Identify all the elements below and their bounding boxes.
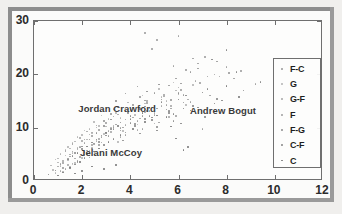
scatter-point bbox=[144, 121, 146, 123]
x-axis-tick bbox=[227, 175, 228, 179]
scatter-point bbox=[103, 133, 105, 135]
scatter-point bbox=[125, 119, 127, 121]
legend-item-fg[interactable]: F-G bbox=[274, 122, 320, 138]
scatter-point bbox=[214, 74, 216, 76]
scatter-point bbox=[154, 114, 156, 116]
legend-marker-dot-icon bbox=[274, 98, 290, 100]
scatter-point bbox=[216, 61, 218, 63]
scatter-point bbox=[81, 140, 83, 142]
scatter-point bbox=[151, 48, 153, 50]
scatter-point bbox=[132, 117, 134, 119]
scatter-point bbox=[98, 138, 100, 140]
x-axis-tick bbox=[82, 21, 83, 25]
scatter-point bbox=[228, 72, 230, 74]
scatter-point bbox=[103, 120, 105, 122]
scatter-point bbox=[130, 115, 132, 117]
scatter-point bbox=[120, 134, 122, 136]
legend-marker-dot-icon bbox=[274, 68, 290, 70]
legend-item-f[interactable]: F bbox=[274, 107, 320, 123]
scatter-point bbox=[108, 141, 110, 143]
scatter-point bbox=[187, 146, 189, 148]
scatter-point bbox=[110, 128, 112, 130]
scatter-point bbox=[77, 160, 79, 162]
scatter-point bbox=[175, 78, 177, 80]
scatter-point bbox=[161, 99, 163, 101]
scatter-point bbox=[190, 101, 192, 103]
scatter-point bbox=[211, 59, 213, 61]
scatter-point bbox=[120, 130, 122, 132]
scatter-point bbox=[101, 136, 103, 138]
scatter-point bbox=[183, 94, 185, 96]
legend-label: G-F bbox=[290, 94, 305, 104]
y-axis-tick-label: 20 bbox=[5, 66, 29, 80]
scatter-point bbox=[139, 96, 141, 98]
legend-item-fc[interactable]: F-C bbox=[274, 61, 320, 77]
scatter-point bbox=[101, 142, 103, 144]
scatter-point bbox=[125, 134, 127, 136]
scatter-point bbox=[72, 143, 74, 145]
scatter-point bbox=[233, 78, 235, 80]
scatter-point bbox=[48, 174, 50, 176]
scatter-point bbox=[65, 155, 67, 157]
x-axis-tick bbox=[179, 21, 180, 25]
scatter-point bbox=[96, 139, 98, 141]
scatter-point bbox=[77, 149, 79, 151]
x-axis-tick bbox=[130, 21, 131, 25]
scatter-point bbox=[130, 122, 132, 124]
legend-label: C-F bbox=[290, 140, 304, 150]
scatter-point bbox=[185, 95, 187, 97]
scatter-point bbox=[67, 146, 69, 148]
scatter-point bbox=[57, 162, 59, 164]
scatter-point bbox=[55, 170, 57, 172]
scatter-point bbox=[91, 142, 93, 144]
scatter-point bbox=[161, 105, 163, 107]
scatter-point bbox=[98, 125, 100, 127]
legend-item-g[interactable]: G bbox=[274, 76, 320, 92]
scatter-point bbox=[96, 140, 98, 142]
scatter-point bbox=[105, 122, 107, 124]
legend-item-cf[interactable]: C-F bbox=[274, 138, 320, 154]
legend: F-CGG-FFF-GC-FC bbox=[273, 58, 321, 168]
scatter-point bbox=[134, 114, 136, 116]
scatter-point bbox=[69, 156, 71, 158]
scatter-point bbox=[50, 165, 52, 167]
scatter-point bbox=[62, 167, 64, 169]
y-axis-tick bbox=[34, 128, 38, 129]
scatter-point bbox=[185, 69, 187, 71]
scatter-point bbox=[134, 125, 136, 127]
scatter-point bbox=[96, 132, 98, 134]
legend-marker-dot-icon bbox=[274, 114, 290, 116]
scatter-point bbox=[77, 152, 79, 154]
scatter-point bbox=[195, 80, 197, 82]
scatter-point bbox=[142, 115, 144, 117]
legend-marker-dot-icon bbox=[274, 160, 290, 162]
y-axis-tick bbox=[34, 21, 38, 22]
scatter-point bbox=[139, 118, 141, 120]
frame-bevel-right bbox=[330, 7, 334, 202]
x-axis-tick-label: 8 bbox=[222, 183, 229, 197]
scatter-point bbox=[81, 170, 83, 172]
scatter-point bbox=[86, 131, 88, 133]
scatter-point bbox=[62, 162, 64, 164]
scatter-point bbox=[60, 153, 62, 155]
y-axis-tick-label: 0 bbox=[5, 173, 29, 187]
scatter-point bbox=[110, 131, 112, 133]
scatter-point bbox=[178, 35, 180, 37]
scatter-point bbox=[144, 118, 146, 120]
x-axis-tick bbox=[227, 21, 228, 25]
player-annotation: Andrew Bogut bbox=[190, 105, 256, 116]
scatter-point bbox=[110, 119, 112, 121]
legend-item-gf[interactable]: G-F bbox=[274, 92, 320, 108]
scatter-point bbox=[130, 119, 132, 121]
legend-item-c[interactable]: C bbox=[274, 153, 320, 169]
scatter-point bbox=[173, 65, 175, 67]
scatter-point bbox=[65, 150, 67, 152]
scatter-point bbox=[86, 139, 88, 141]
scatter-point bbox=[170, 105, 172, 107]
scatter-point bbox=[91, 135, 93, 137]
scatter-point bbox=[166, 104, 168, 106]
scatter-point bbox=[69, 154, 71, 156]
scatter-point bbox=[178, 92, 180, 94]
scatter-point bbox=[120, 117, 122, 119]
scatter-point bbox=[91, 166, 93, 168]
